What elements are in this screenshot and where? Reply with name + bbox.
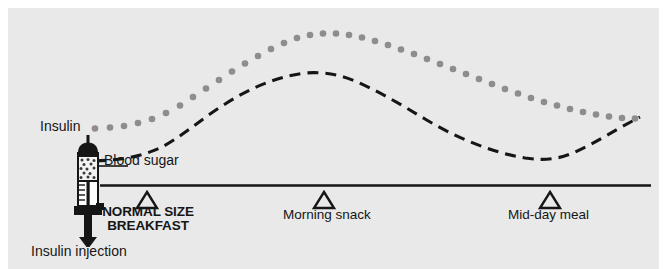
midday-meal-label: Mid-day meal (508, 208, 589, 222)
morning-snack-label: Morning snack (283, 208, 371, 222)
insulin-injection-label: Insulin injection (31, 244, 127, 259)
blood-sugar-curve (95, 73, 640, 161)
breakfast-label: NORMAL SIZE BREAKFAST (86, 205, 210, 233)
insulin-curve (92, 30, 639, 132)
insulin-label: Insulin (40, 119, 80, 134)
marker-morning-snack-icon (314, 192, 334, 208)
breakfast-label-line1: NORMAL SIZE (86, 205, 210, 219)
blood-sugar-label: Blood sugar (104, 153, 179, 168)
breakfast-label-line2: BREAKFAST (86, 219, 210, 233)
insulin-blood-sugar-diagram: Insulin Blood sugar NORMAL SIZE BREAKFAS… (0, 0, 667, 269)
marker-midday-meal-icon (540, 192, 560, 208)
